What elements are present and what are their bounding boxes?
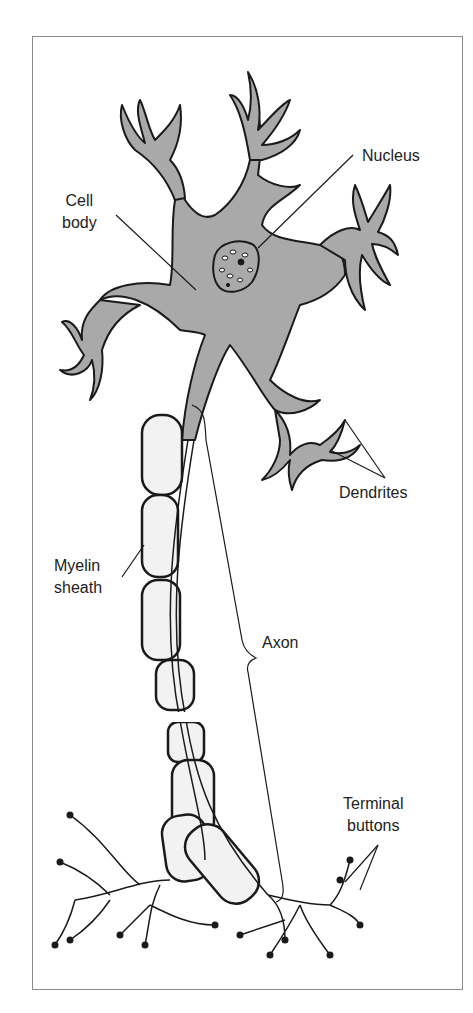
label-myelin-line1: Myelin: [54, 555, 102, 577]
label-axon: Axon: [262, 632, 298, 654]
label-cell-body: Cell body: [62, 190, 97, 234]
label-dendrites: Dendrites: [339, 482, 407, 504]
axon-break: [150, 712, 220, 722]
label-cell-body-line2: body: [62, 212, 97, 234]
label-terminal-line2: buttons: [343, 815, 403, 837]
label-terminal-line1: Terminal: [343, 793, 403, 815]
label-cell-body-line1: Cell: [62, 190, 97, 212]
label-myelin-sheath: Myelin sheath: [54, 555, 102, 599]
label-myelin-line2: sheath: [54, 577, 102, 599]
label-nucleus: Nucleus: [362, 145, 420, 167]
label-terminal-buttons: Terminal buttons: [343, 793, 403, 837]
